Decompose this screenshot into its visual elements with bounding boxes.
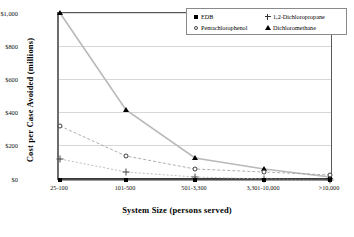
x-axis-title: System Size (persons served) xyxy=(0,205,354,215)
y-tick-label: $400 xyxy=(0,110,18,116)
legend-label: EDB xyxy=(201,13,213,20)
x-tick-label: 101-500 xyxy=(92,184,158,191)
y-tick-label: $0 xyxy=(0,177,18,183)
data-point-edb xyxy=(58,178,62,182)
data-point-dichloromethane xyxy=(57,10,63,15)
data-point-12-dichloropropane xyxy=(123,169,130,176)
data-point-pentachlorophenol xyxy=(58,124,63,129)
legend-item-pentachlorophenol: Pentachlorophenol xyxy=(190,24,262,31)
plus-icon xyxy=(262,14,273,20)
data-point-edb xyxy=(262,178,266,182)
legend-label: Pentachlorophenol xyxy=(201,24,247,31)
legend-item-12-dichloropropane: 1,2-Dichloropropane xyxy=(262,13,325,20)
data-point-edb xyxy=(193,178,197,182)
legend-item-dichloromethane: Dichloromethane xyxy=(262,24,316,31)
x-tick-label: 501-3,300 xyxy=(161,184,227,191)
data-point-edb xyxy=(328,178,332,182)
legend-row: Pentachlorophenol Dichloromethane xyxy=(190,22,343,33)
y-tick-label: $800 xyxy=(0,44,18,50)
data-point-dichloromethane xyxy=(192,155,198,160)
data-point-edb xyxy=(124,178,128,182)
chart-container: Cost per Case Avoided (millions) $1,000 … xyxy=(0,0,354,237)
x-tick-label: >10,000 xyxy=(296,184,354,191)
series-line-dichloromethane xyxy=(60,13,330,177)
filled-triangle-icon xyxy=(262,25,273,30)
data-point-pentachlorophenol xyxy=(262,170,267,175)
legend-row: EDB 1,2-Dichloropropane xyxy=(190,11,343,22)
y-tick-label: $1,000 xyxy=(0,11,18,17)
legend-item-edb: EDB xyxy=(190,13,262,20)
y-axis-title: Cost per Case Avoided (millions) xyxy=(25,15,35,185)
data-point-pentachlorophenol xyxy=(124,154,129,159)
x-tick-label: 3,301-10,000 xyxy=(230,184,296,191)
legend-label: 1,2-Dichloropropane xyxy=(273,13,325,20)
data-point-pentachlorophenol xyxy=(193,167,198,172)
x-tick-label: 25-100 xyxy=(26,184,92,191)
filled-square-icon xyxy=(190,15,201,19)
open-circle-icon xyxy=(190,26,201,30)
legend: EDB 1,2-Dichloropropane Pentachloropheno… xyxy=(186,8,347,35)
data-point-12-dichloropropane xyxy=(57,156,64,163)
plot-area xyxy=(57,12,332,180)
y-tick-label: $600 xyxy=(0,77,18,83)
y-tick-label: $200 xyxy=(0,143,18,149)
legend-label: Dichloromethane xyxy=(273,24,316,31)
data-point-dichloromethane xyxy=(123,107,129,112)
